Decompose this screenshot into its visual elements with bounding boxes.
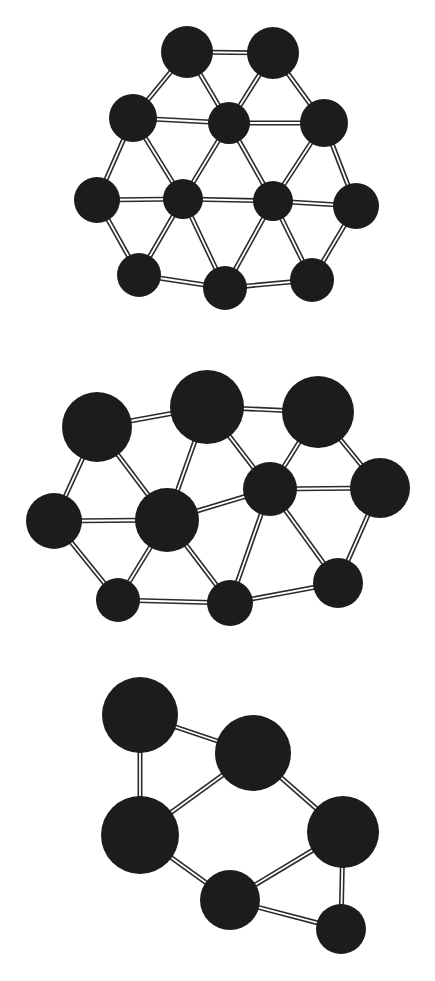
- atom-M10: [313, 558, 363, 608]
- atom-M9: [207, 580, 253, 626]
- atom-C1: [74, 177, 120, 223]
- atom-B3: [300, 99, 348, 147]
- atom-C2: [163, 179, 203, 219]
- structure-bottom: [101, 677, 379, 954]
- atom-L3: [101, 796, 179, 874]
- bond-group-top: [97, 52, 356, 288]
- atom-M6: [135, 488, 199, 552]
- atom-L2: [215, 715, 291, 791]
- atom-M5: [243, 462, 297, 516]
- atom-B1: [109, 94, 157, 142]
- atom-A2: [247, 27, 299, 79]
- atom-B2: [208, 102, 250, 144]
- structure-top: [74, 26, 379, 310]
- atom-M3: [282, 376, 354, 448]
- atom-group-top: [74, 26, 379, 310]
- structure-middle: [26, 370, 410, 626]
- atom-group-middle: [26, 370, 410, 626]
- atom-D3: [290, 258, 334, 302]
- atom-M1: [62, 392, 132, 462]
- atom-M7: [26, 493, 82, 549]
- atom-M8: [96, 578, 140, 622]
- atom-L6: [316, 904, 366, 954]
- atom-L1: [102, 677, 178, 753]
- atom-M2: [170, 370, 244, 444]
- atom-D2: [203, 266, 247, 310]
- atom-L4: [307, 796, 379, 868]
- cluster-diagram: [0, 0, 435, 981]
- atom-L5: [200, 870, 260, 930]
- atom-C4: [333, 183, 379, 229]
- atom-group-bottom: [101, 677, 379, 954]
- atom-D1: [117, 253, 161, 297]
- atom-C3: [253, 181, 293, 221]
- atom-A1: [161, 26, 213, 78]
- atom-M4: [350, 458, 410, 518]
